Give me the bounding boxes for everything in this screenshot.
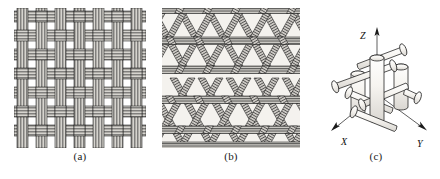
triaxial-tows: [162, 8, 300, 148]
axis-label-x: X: [341, 136, 347, 147]
caption-panel-b: (b): [211, 150, 251, 162]
caption-panel-c: (c): [356, 150, 396, 162]
figure-panels-abc: Z X Y (a) (b) (c): [0, 0, 440, 179]
axis-label-z: Z: [360, 30, 366, 41]
axis-label-y: Y: [417, 138, 423, 149]
orthogonal-cylinders-diagram: [318, 14, 434, 148]
cylinder-tows: [330, 43, 423, 132]
plain-weave-diagram: [14, 8, 146, 148]
triaxial-weave-diagram: [162, 8, 300, 148]
panel-triaxial-weave: [162, 8, 300, 148]
panel-3d-orthogonal: [318, 14, 434, 148]
x-arrowhead: [331, 122, 340, 131]
y-arrowhead: [418, 122, 428, 131]
z-tow-center: [370, 55, 384, 123]
plain-weave-tows: [14, 8, 146, 148]
panel-plain-weave: [14, 8, 146, 148]
caption-panel-a: (a): [60, 150, 100, 162]
